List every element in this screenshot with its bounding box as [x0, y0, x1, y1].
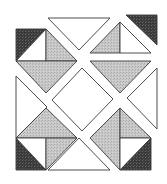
- quilt-pieces: [16, 15, 157, 170]
- quilt-block-diagram: [0, 0, 167, 184]
